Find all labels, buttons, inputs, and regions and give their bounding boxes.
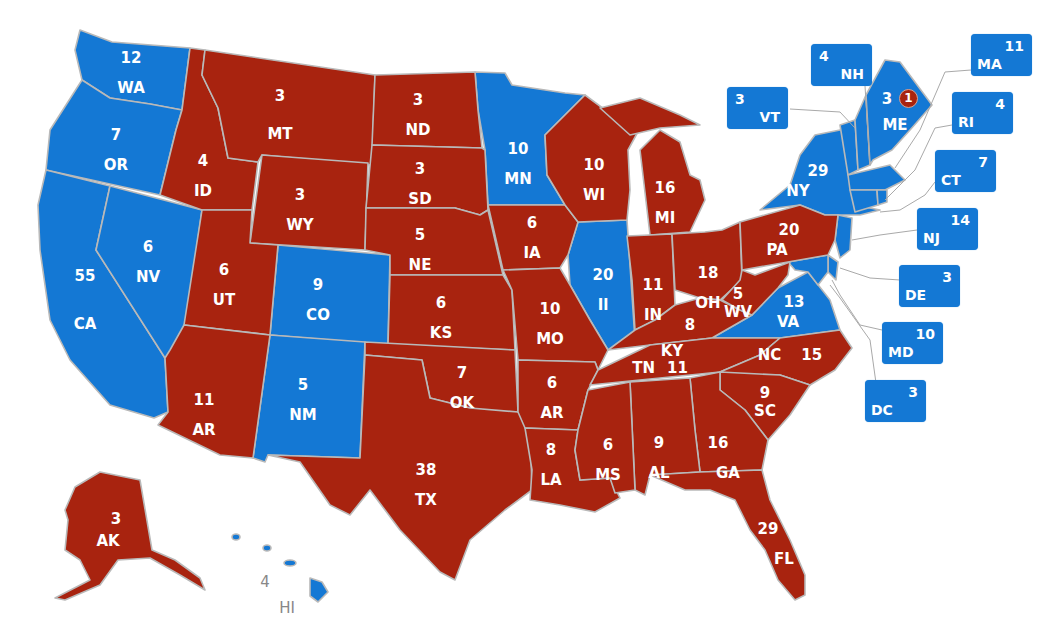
callout-nh[interactable]: 4NH (811, 44, 872, 86)
callout-de[interactable]: 3DE (899, 265, 960, 307)
state-hi[interactable] (232, 534, 328, 602)
callout-dc[interactable]: 3DC (865, 380, 926, 422)
state-sd[interactable] (366, 145, 488, 215)
state-ak[interactable] (55, 472, 205, 600)
state-az[interactable] (158, 325, 270, 458)
state-nm[interactable] (253, 335, 365, 462)
callout-md[interactable]: 10MD (882, 322, 943, 364)
state-de[interactable] (828, 255, 838, 280)
state-fl[interactable] (650, 470, 805, 600)
callout-ma[interactable]: 11MA (971, 34, 1032, 76)
state-co[interactable] (270, 245, 390, 345)
state-ia[interactable] (488, 205, 578, 270)
state-ri[interactable] (877, 190, 887, 205)
state-wy[interactable] (250, 155, 368, 250)
state-ks[interactable] (388, 275, 515, 350)
state-me[interactable] (866, 60, 932, 165)
callout-ri[interactable]: 4RI (952, 92, 1013, 134)
state-mt[interactable] (202, 50, 375, 165)
maine-split-badge: 1 (899, 89, 918, 108)
callout-vt[interactable]: 3VT (727, 87, 788, 129)
us-electoral-map (0, 0, 1051, 637)
callout-nj[interactable]: 14NJ (917, 208, 978, 250)
state-nd[interactable] (372, 72, 482, 148)
state-mi[interactable] (640, 130, 705, 235)
callout-ct[interactable]: 7CT (935, 150, 996, 192)
